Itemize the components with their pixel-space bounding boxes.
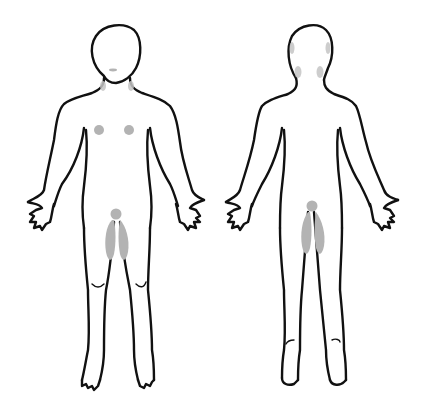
front-right-knee	[136, 282, 146, 287]
front-left-hand	[28, 202, 54, 230]
back-left-waist	[280, 130, 285, 228]
front-left-waist	[83, 130, 87, 228]
back-right-body-outline	[324, 80, 398, 200]
front-right-torso-side	[150, 128, 178, 206]
front-left-knee	[92, 284, 104, 287]
back-right-calf-crease	[332, 339, 340, 342]
front-right-waist	[147, 130, 151, 228]
back-anal-mark	[307, 201, 318, 212]
back-right-hand	[370, 200, 398, 230]
back-left-torso-side	[252, 128, 282, 206]
back-right-heel	[330, 380, 346, 385]
front-chest-right-mark	[124, 125, 134, 135]
back-right-waist	[337, 130, 342, 228]
front-inner-thigh-left-mark	[105, 220, 115, 260]
front-neck-right-mark	[128, 81, 134, 91]
front-left-torso-side	[54, 128, 84, 206]
front-right-foot	[138, 380, 154, 388]
front-left-body-outline	[28, 78, 104, 202]
front-mouth-mark	[109, 69, 117, 72]
front-left-leg-outer	[82, 228, 89, 380]
back-left-calf-crease	[286, 340, 294, 344]
front-neck-left-mark	[100, 81, 106, 91]
back-ear-right-mark	[326, 42, 331, 54]
front-figure	[28, 25, 204, 390]
body-map-diagram: Front view Back view	[0, 0, 424, 407]
back-neck-right-mark	[317, 66, 324, 78]
front-chest-left-mark	[94, 125, 104, 135]
back-right-leg-outer	[340, 228, 346, 380]
front-inner-thigh-right-mark	[119, 220, 129, 260]
back-left-leg-outer	[280, 228, 285, 378]
back-left-hand	[226, 202, 252, 230]
front-head-outline	[92, 25, 140, 83]
front-right-body-outline	[130, 78, 204, 200]
back-buttock-left-mark	[301, 212, 311, 254]
front-right-leg-outer	[148, 228, 154, 380]
back-ear-left-mark	[290, 42, 295, 54]
front-right-hand	[176, 200, 204, 230]
back-buttock-right-mark	[315, 212, 325, 254]
back-neck-left-mark	[295, 66, 302, 78]
front-genital-mark	[111, 209, 122, 220]
back-figure	[226, 25, 398, 385]
back-left-heel	[282, 378, 298, 385]
front-left-foot	[82, 380, 100, 390]
